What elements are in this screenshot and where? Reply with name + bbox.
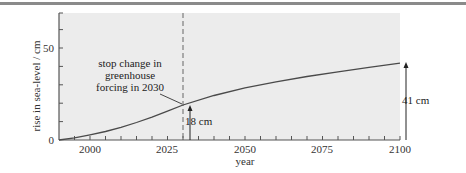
forcing-label-line1: stop change in	[98, 57, 162, 69]
sea-level-chart: 0 50 2000 2025 2050 2075 2100 year rise …	[0, 0, 466, 173]
forcing-label-line2: greenhouse	[105, 69, 155, 81]
arrow-18cm-label: 18 cm	[185, 115, 213, 127]
x-tick-label-2050: 2050	[234, 143, 257, 155]
arrow-up-icon	[404, 62, 409, 68]
arrow-41cm-label: 41 cm	[402, 94, 430, 106]
y-tick-label-0: 0	[49, 134, 55, 146]
x-tick-label-2100: 2100	[389, 143, 412, 155]
x-tick-label-2075: 2075	[311, 143, 334, 155]
forcing-label-line3: forcing in 2030	[96, 81, 164, 93]
x-tick-label-2000: 2000	[79, 143, 102, 155]
y-tick-label-50: 50	[43, 42, 55, 54]
y-axis-title: rise in sea-level / cm	[30, 40, 42, 131]
x-tick-label-2025: 2025	[156, 143, 179, 155]
x-axis-title: year	[236, 155, 255, 167]
